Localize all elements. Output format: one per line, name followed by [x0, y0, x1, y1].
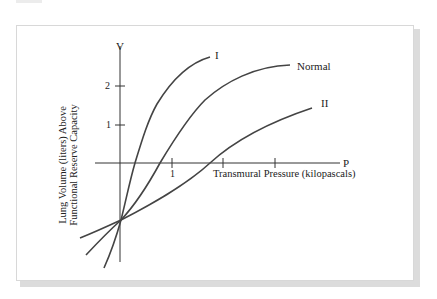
- x-axis-label: Transmural Pressure (kilopascals): [213, 168, 356, 180]
- curve-normal-label: Normal: [297, 60, 331, 72]
- curve-II-label: II: [321, 97, 329, 109]
- y-tick-label-2: 2: [105, 80, 110, 91]
- x-tick-label-1: 1: [170, 168, 175, 179]
- y-axis-label-line2: Functional Reserve Capacity: [68, 104, 79, 226]
- y-axis-symbol: V: [116, 40, 124, 52]
- y-tick-label-1: 1: [106, 119, 111, 130]
- curve-normal: [86, 65, 290, 255]
- pressure-volume-diagram: V P 2 1 1 Transmural Pressure (kilopasca…: [0, 0, 437, 299]
- curve-I-label: I: [215, 49, 219, 61]
